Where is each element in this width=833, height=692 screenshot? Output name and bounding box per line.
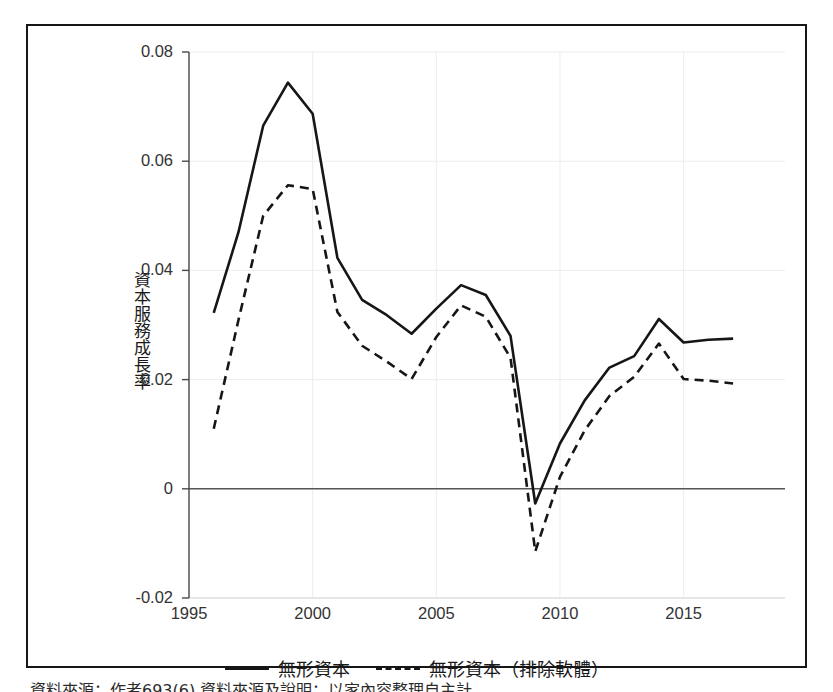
y-tick-label: 0.04 xyxy=(117,260,173,279)
grid-lines xyxy=(189,52,785,598)
x-tick-label: 2000 xyxy=(283,604,343,623)
x-tick-label: 1995 xyxy=(159,604,219,623)
legend-swatch-solid-icon xyxy=(225,667,269,670)
x-tick-label: 2015 xyxy=(654,604,714,623)
caption-text: 資料來源：作者693(6) 資料來源及說明：以家內容整理自主計 xyxy=(30,678,810,692)
y-tick-label: 0.02 xyxy=(117,370,173,389)
y-tick-label: 0 xyxy=(117,479,173,498)
axis-lines xyxy=(182,52,189,598)
y-tick-label: 0.06 xyxy=(117,151,173,170)
y-tick-label: 0.08 xyxy=(117,42,173,61)
x-tick-label: 2010 xyxy=(530,604,590,623)
legend-swatch-dashed-icon xyxy=(376,667,420,670)
x-tick-label: 2005 xyxy=(406,604,466,623)
plot-area: 資本服務成長率 0.080.060.040.020-0.02 199520002… xyxy=(28,26,805,666)
series-line-2 xyxy=(214,185,733,551)
figure-frame: 資本服務成長率 0.080.060.040.020-0.02 199520002… xyxy=(26,24,807,668)
series-line-1 xyxy=(214,83,733,504)
data-series-layer xyxy=(214,83,733,552)
